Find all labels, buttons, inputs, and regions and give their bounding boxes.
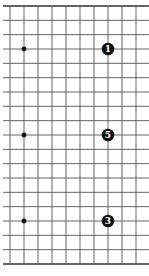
- stone-move-number: 5: [105, 130, 111, 140]
- stone-1: 1: [102, 43, 115, 56]
- stone-5: 5: [102, 129, 115, 142]
- stone-3: 3: [102, 215, 115, 228]
- star-point-icon: [22, 47, 27, 52]
- go-board-diagram: 153: [0, 0, 149, 276]
- stone-move-number: 1: [105, 44, 111, 54]
- star-point-icon: [22, 133, 27, 138]
- stone-move-number: 3: [105, 216, 111, 226]
- star-point-icon: [22, 219, 27, 224]
